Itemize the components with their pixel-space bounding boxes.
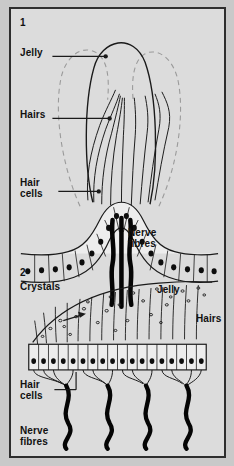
panel-1-number: 1	[20, 17, 26, 28]
label-nerve-fibres-panel1: Nerve fibres	[128, 228, 156, 249]
label-hair-cells-panel2: Hair cells	[20, 380, 43, 401]
label-hairs-panel2: Hairs	[196, 314, 222, 325]
jelly-leader-dot	[103, 54, 107, 58]
crystals-arrow-head	[78, 312, 86, 318]
figure-plate: 1 Jelly Hairs Hair cells Nerve fibres 2 …	[0, 0, 234, 466]
panel-2-number: 2	[20, 267, 26, 278]
hairs-leader-dot	[107, 116, 111, 120]
nerve-branches-2	[34, 370, 202, 386]
label-crystals-panel2: Crystals	[20, 282, 60, 293]
label-jelly-panel2: Jelly	[157, 285, 180, 296]
label-hair-cells-panel1: Hair cells	[20, 178, 43, 199]
label-nerve-fibres-panel2: Nerve fibres	[20, 426, 48, 447]
cupula-ghost-left-outline	[58, 50, 108, 206]
cupula-ghost-right-outline	[133, 52, 181, 206]
hairs-group	[87, 90, 169, 205]
label-jelly-panel1: Jelly	[20, 48, 43, 59]
hair-cells-leader-dot	[97, 189, 101, 193]
figure-frame: 1 Jelly Hairs Hair cells Nerve fibres 2 …	[9, 7, 226, 458]
label-hairs-panel1: Hairs	[20, 110, 46, 121]
panel-1-artwork	[21, 43, 218, 307]
diagram-artwork	[11, 9, 224, 451]
nerve-fibres-group-2	[65, 386, 191, 449]
cupula-outline	[86, 43, 155, 204]
